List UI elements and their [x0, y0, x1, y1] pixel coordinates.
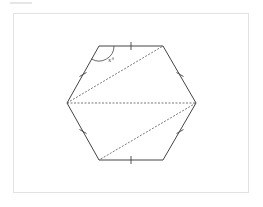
angle-label: x° [108, 56, 114, 63]
diagonal-left-to-top-right [67, 46, 163, 103]
tick-upper-left [80, 73, 87, 77]
diagonal-right-to-bottom-left [99, 103, 196, 160]
tick-lower-left [80, 130, 87, 134]
hexagon-diagram: x° [0, 0, 263, 207]
